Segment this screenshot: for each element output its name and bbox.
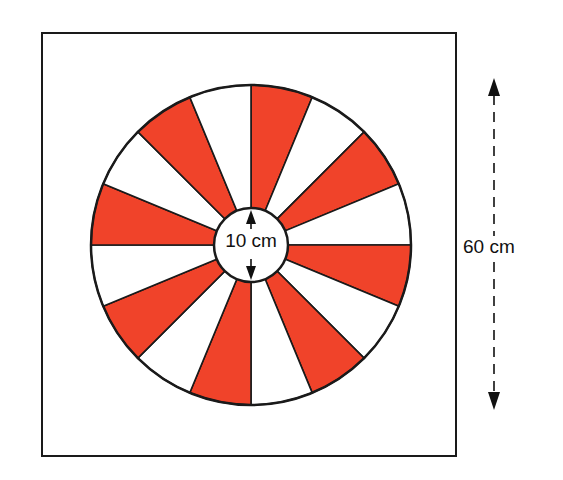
dimension-arrow-down-icon <box>488 392 500 410</box>
square-height-label: 60 cm <box>462 236 516 258</box>
inner-diameter-label: 10 cm <box>216 230 286 252</box>
dimension-arrow-up-icon <box>488 78 500 96</box>
